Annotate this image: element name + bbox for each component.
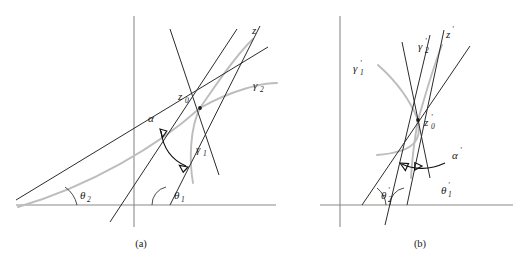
panel-b-theta2-prime: ′ (388, 186, 390, 195)
panel-b-gamma2-label: γ (418, 40, 423, 52)
panel-b-alpha-label: α (452, 149, 458, 161)
panel-b-z-label: z (445, 28, 451, 40)
panel-a-z0-subscript: 0 (185, 96, 189, 105)
panel-b: z 0 ′ α ′ γ 1 ′ γ 2 ′ z ′ θ 1 ′ θ 2 ′ (b… (320, 16, 513, 250)
panel-b-gamma2-prime: ′ (425, 37, 427, 46)
panel-b-intersection-point (416, 118, 420, 122)
panel-b-tangent-line-gamma2 (362, 46, 470, 205)
panel-b-alpha-prime: ′ (460, 146, 462, 155)
panel-a-alpha-label: α (148, 112, 154, 124)
panel-b-gamma1-subscript: 1 (360, 68, 364, 77)
panel-b-z0-subscript: 0 (431, 122, 435, 131)
panel-a-theta1-arc (152, 187, 166, 205)
panel-a-theta1-label: θ (174, 189, 180, 201)
panel-b-theta1-arc (390, 188, 404, 205)
panel-a-gamma1-label: γ (196, 143, 201, 155)
panel-a-intersection-point (198, 106, 202, 110)
panel-a-tangent-line-gamma2 (16, 47, 268, 200)
panel-b-z0-prime: ′ (431, 113, 433, 122)
panel-b-caption: (b) (414, 238, 427, 250)
panel-b-theta1-prime: ′ (448, 181, 450, 190)
panel-a-curve-gamma1 (191, 39, 253, 183)
panel-a-gamma1-subscript: 1 (203, 149, 207, 158)
panel-b-tangent-line-left (402, 42, 430, 178)
panel-b-gamma1-prime: ′ (360, 59, 362, 68)
panel-a: z 0 α γ 1 γ 2 z θ 1 θ 2 (a) (16, 16, 277, 250)
panel-b-theta2-subscript: 2 (388, 195, 392, 204)
panel-b-z0-label: z (423, 116, 429, 128)
panel-a-theta1-subscript: 1 (181, 195, 185, 204)
panel-b-gamma2-subscript: 2 (425, 46, 429, 55)
panel-b-theta1-label: θ (441, 184, 447, 196)
panel-a-z0-label: z (177, 90, 183, 102)
panel-a-z-label: z (251, 24, 257, 36)
panel-b-gamma1-label: γ (353, 62, 358, 74)
panel-a-gamma2-label: γ (253, 79, 258, 91)
panel-b-alpha-arrowhead-left (400, 163, 409, 171)
panel-a-gamma2-subscript: 2 (260, 85, 264, 94)
panel-a-curve-gamma2 (18, 83, 277, 207)
panel-a-theta2-subscript: 2 (87, 195, 91, 204)
panel-a-caption: (a) (135, 238, 147, 250)
panel-b-z-prime: ′ (452, 25, 454, 34)
figure-container: z 0 α γ 1 γ 2 z θ 1 θ 2 (a) (0, 0, 529, 263)
panel-b-theta1-subscript: 1 (448, 190, 452, 199)
conformal-mapping-diagram: z 0 α γ 1 γ 2 z θ 1 θ 2 (a) (0, 0, 529, 263)
panel-b-theta2-label: θ (381, 189, 387, 201)
panel-a-theta2-label: θ (80, 189, 86, 201)
panel-a-tangent-line-gamma1 (170, 26, 260, 205)
